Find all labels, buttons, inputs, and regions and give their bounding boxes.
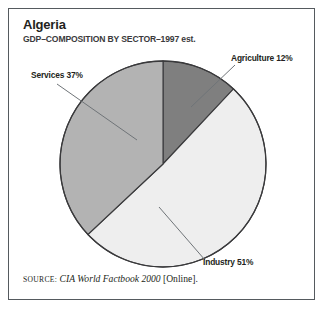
pie-label-services: Services 37% [31, 71, 83, 79]
pie-label-industry: Industry 51% [203, 258, 253, 266]
source-suffix: [Online]. [163, 273, 198, 284]
chart-figure-frame: Algeria GDP–COMPOSITION BY SECTOR–1997 e… [8, 8, 315, 300]
source-kicker: SOURCE: [23, 275, 57, 284]
source-work-title: CIA World Factbook 2000 [60, 273, 161, 284]
pie-label-agriculture: Agriculture 12% [231, 54, 293, 62]
source-note: SOURCE: CIA World Factbook 2000 [Online]… [23, 273, 198, 285]
